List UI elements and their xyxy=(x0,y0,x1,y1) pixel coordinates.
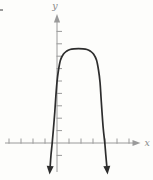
curve-right-arrowhead-icon xyxy=(103,166,110,175)
edge-artifact-dot xyxy=(0,9,3,11)
curve-left-arrowhead-icon xyxy=(47,166,54,175)
y-axis-label: y xyxy=(51,0,58,11)
plot-built-layer xyxy=(5,14,141,174)
parabola-curve xyxy=(50,49,107,166)
parabola-plot: y x xyxy=(0,0,153,180)
graph-figure: y x xyxy=(0,0,153,180)
x-axis-label: x xyxy=(145,137,151,148)
x-axis-arrowhead-icon xyxy=(133,140,141,146)
y-axis-arrowhead-icon xyxy=(54,14,60,23)
